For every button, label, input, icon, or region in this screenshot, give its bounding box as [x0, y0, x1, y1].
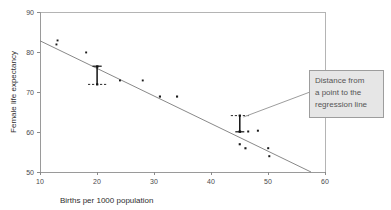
frame-top-right-border	[40, 12, 325, 172]
data-point	[119, 80, 121, 82]
data-points-group	[56, 40, 271, 158]
data-point	[159, 96, 161, 98]
y-tick-label-50: 50	[26, 169, 34, 176]
data-point	[142, 80, 144, 82]
data-point	[257, 130, 259, 132]
x-tick-label-30: 30	[150, 178, 158, 185]
left-residual-marker	[88, 66, 107, 84]
scatter-plot-figure: 90 80 70 60 50 10 20 30 40 50 60 Births …	[0, 0, 391, 210]
x-tick-label-20: 20	[93, 178, 101, 185]
distance-callout[interactable]: Distance from a point to the regression …	[310, 71, 384, 118]
x-tick-label-60: 60	[321, 178, 329, 185]
data-point	[176, 96, 178, 98]
y-axis: 90 80 70 60 50	[26, 9, 40, 176]
callout-line-2: a point to the	[315, 88, 362, 97]
data-point	[56, 44, 58, 46]
right-residual-marker	[231, 116, 250, 132]
callout-leader-line	[244, 92, 311, 117]
x-axis: 10 20 30 40 50 60	[36, 172, 329, 185]
data-point	[244, 147, 246, 149]
chart-svg: 90 80 70 60 50 10 20 30 40 50 60 Births …	[0, 0, 391, 210]
x-axis-title: Births per 1000 population	[60, 196, 153, 205]
y-tick-label-60: 60	[26, 129, 34, 136]
x-tick-label-40: 40	[207, 178, 215, 185]
data-point	[247, 131, 249, 133]
callout-line-1: Distance from	[315, 76, 365, 85]
data-point	[239, 143, 241, 145]
data-point	[85, 52, 87, 54]
data-point	[57, 40, 59, 42]
data-point	[268, 155, 270, 157]
y-tick-label-70: 70	[26, 89, 34, 96]
y-axis-title: Female life expectancy	[9, 51, 18, 133]
data-point	[267, 147, 269, 149]
callout-line-3: regression line	[315, 100, 368, 109]
y-tick-label-80: 80	[26, 49, 34, 56]
plot-frame	[40, 12, 325, 172]
y-tick-label-90: 90	[26, 9, 34, 16]
x-tick-label-10: 10	[36, 178, 44, 185]
x-tick-label-50: 50	[264, 178, 272, 185]
